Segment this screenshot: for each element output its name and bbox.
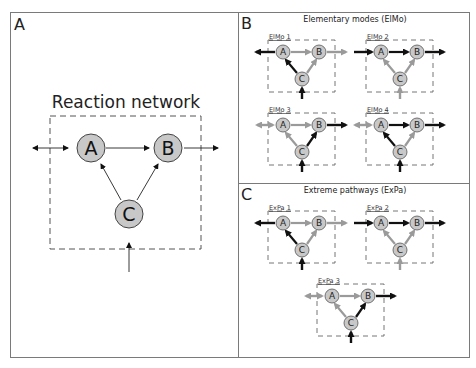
mode-label: ElMo 4 (367, 106, 389, 114)
node-c-label: C (299, 74, 305, 84)
node-a-label: A (85, 137, 98, 159)
expa-3: ExPa 3ABC (306, 277, 395, 343)
panel-c-letter: C (241, 185, 252, 204)
elmo-1: ElMo 1ABC (256, 33, 346, 99)
mode-label: ElMo 1 (269, 33, 291, 41)
panel-b: B Elementary modes (ElMo) (241, 14, 407, 33)
elmo-4: ElMo 4ABC (355, 106, 444, 172)
node-a-label: A (280, 218, 287, 228)
node-c-label: C (397, 74, 403, 84)
node-a-label: A (329, 291, 336, 301)
node-c-label: C (299, 245, 305, 255)
mode-label: ExPa 1 (269, 204, 291, 212)
node-c-label: C (397, 245, 403, 255)
node-c-label: C (397, 147, 403, 157)
panel-c: C Extreme pathways (ExPa) (241, 185, 406, 204)
elmo-3: ElMo 3ABC (257, 106, 346, 172)
node-c-label: C (122, 203, 135, 225)
node-b-label: B (161, 137, 174, 159)
node-b-label: B (414, 120, 420, 130)
mode-label: ElMo 2 (367, 33, 389, 41)
node-b-label: B (414, 47, 420, 57)
figure-canvas: A Reaction network A B C B Elementary mo… (0, 0, 476, 368)
node-b-label: B (316, 47, 322, 57)
expa-title: Extreme pathways (ExPa) (304, 186, 407, 195)
arrow-c-to-b (137, 164, 158, 200)
node-b-label: B (316, 120, 322, 130)
reaction-network-title: Reaction network (52, 92, 200, 112)
mode-label: ElMo 3 (269, 106, 291, 114)
outer-frame (11, 13, 470, 358)
arrow-c-to-a (101, 164, 121, 200)
node-a-label: A (280, 120, 287, 130)
expa-2: ExPa 2ABC (354, 204, 444, 270)
node-a-label: A (280, 47, 287, 57)
node-a-label: A (378, 120, 385, 130)
network-boundary-dashed (50, 116, 201, 249)
node-a-label: A (378, 218, 385, 228)
node-a-label: A (378, 47, 385, 57)
node-b-label: B (316, 218, 322, 228)
node-b-label: B (365, 291, 371, 301)
elmo-2: ElMo 2ABC (354, 33, 444, 99)
panel-b-letter: B (241, 14, 252, 33)
expa-1: ExPa 1ABC (256, 204, 346, 270)
node-c-label: C (299, 147, 305, 157)
mode-label: ExPa 2 (367, 204, 389, 212)
mode-label: ExPa 3 (318, 277, 340, 285)
node-c-label: C (348, 318, 354, 328)
node-b-label: B (414, 218, 420, 228)
panel-a: A Reaction network A B C (14, 15, 218, 272)
panel-a-letter: A (14, 15, 25, 34)
elmo-title: Elementary modes (ElMo) (303, 15, 406, 24)
